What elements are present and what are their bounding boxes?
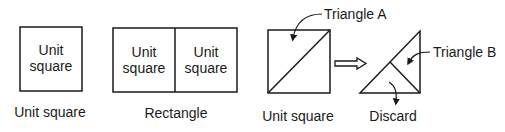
rectangle-caption: Rectangle — [144, 105, 207, 121]
split-square-diagonal — [268, 30, 330, 93]
split-square-caption: Unit square — [262, 108, 334, 124]
triangle-b-callout: Triangle B — [433, 44, 496, 60]
unit-square-panel: Unit square Unit square — [14, 27, 86, 120]
discard-caption: Discard — [369, 108, 416, 124]
rectangle-left-label-2: square — [123, 60, 166, 76]
rectangle-right-label-2: square — [185, 60, 228, 76]
triangle-b-panel: Triangle B Discard — [360, 31, 496, 124]
split-square-panel: Triangle A Unit square — [262, 6, 387, 124]
triangle-a-pointer-icon — [293, 14, 322, 38]
unit-square-diagram: Unit square Unit square Unit square Unit… — [0, 0, 505, 132]
rectangle-right-label-1: Unit — [194, 44, 219, 60]
discard-pointer-icon — [389, 82, 396, 102]
triangle-a-callout: Triangle A — [324, 6, 387, 22]
transform-arrow-icon — [335, 58, 366, 69]
unit-square-inner-label-2: square — [30, 58, 73, 74]
unit-square-inner-label-1: Unit — [39, 42, 64, 58]
rectangle-left-label-1: Unit — [132, 44, 157, 60]
unit-square-caption: Unit square — [14, 104, 86, 120]
rectangle-panel: Unit square Unit square Rectangle — [113, 28, 237, 121]
